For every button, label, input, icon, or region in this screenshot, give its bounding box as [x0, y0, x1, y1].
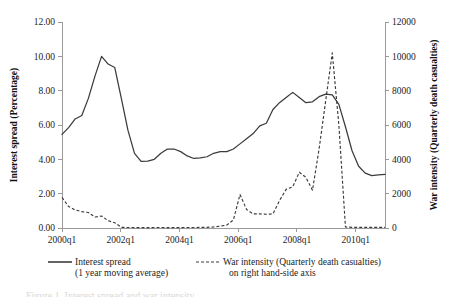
- right-tick-label: 12000: [392, 17, 416, 27]
- legend-label-war-intensity-line1: War intensity (Quarterly death casualtie…: [223, 257, 381, 268]
- x-tick-label: 2002q1: [106, 235, 135, 245]
- right-tick-label: 4000: [392, 155, 411, 165]
- right-tick-label: 10000: [392, 52, 416, 62]
- left-tick-label: 2.00: [38, 189, 55, 199]
- x-tick-label: 2006q1: [224, 235, 253, 245]
- left-tick-label: 4.00: [38, 155, 55, 165]
- left-tick-label: 8.00: [38, 86, 55, 96]
- chart-legend: Interest spread (1 year moving average) …: [48, 257, 381, 279]
- right-tick-label: 2000: [392, 189, 411, 199]
- right-tick-label: 0: [392, 223, 397, 233]
- x-tick-label: 2004q1: [165, 235, 194, 245]
- right-tick-label: 8000: [392, 86, 411, 96]
- left-tick-label: 0.00: [38, 223, 55, 233]
- right-axis-ticks: 020004000600080001000012000: [385, 17, 416, 233]
- left-axis-ticks: 0.002.004.006.008.0010.0012.00: [34, 17, 62, 233]
- right-axis-title: War intensity (Quarterly death casualtie…: [429, 40, 440, 211]
- legend-label-interest-spread-line1: Interest spread: [75, 257, 131, 267]
- right-tick-label: 6000: [392, 120, 411, 130]
- legend-label-interest-spread-line2: (1 year moving average): [75, 268, 168, 279]
- left-tick-label: 12.00: [34, 17, 56, 27]
- figure-container: 0.002.004.006.008.0010.0012.00 020004000…: [0, 0, 450, 297]
- series-war-intensity: [62, 53, 385, 228]
- figure-caption-partial: Figure 1. Interest spread and war intens…: [26, 290, 356, 297]
- left-tick-label: 6.00: [38, 120, 55, 130]
- x-tick-label: 2010q1: [341, 235, 370, 245]
- left-axis-title: Interest spread (Percentage): [9, 68, 20, 183]
- x-tick-label: 2008q1: [283, 235, 312, 245]
- chart-canvas: 0.002.004.006.008.0010.0012.00 020004000…: [0, 0, 450, 297]
- x-axis-ticks: 2000q12002q12004q12006q12008q12010q1: [48, 228, 370, 245]
- left-tick-label: 10.00: [34, 52, 56, 62]
- x-tick-label: 2000q1: [48, 235, 77, 245]
- legend-label-war-intensity-line2: on right hand-side axis: [229, 268, 316, 278]
- series-interest-spread: [62, 56, 385, 175]
